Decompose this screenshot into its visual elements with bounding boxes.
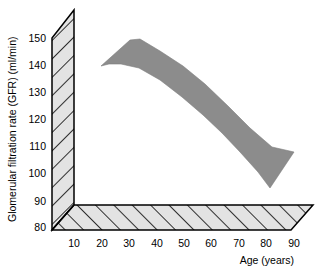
y-tick-label-130: 130 (28, 86, 46, 98)
x-tick-label-30: 30 (123, 237, 135, 249)
x-axis-title: Age (years) (240, 254, 294, 266)
gfr-age-chart: 150 140 130 120 110 100 90 80 10 20 30 4… (0, 0, 328, 278)
x-tick-label-20: 20 (96, 237, 108, 249)
x-tick-label-40: 40 (151, 237, 163, 249)
chart-figure: 150 140 130 120 110 100 90 80 10 20 30 4… (0, 0, 328, 278)
x-tick-label-70: 70 (233, 237, 245, 249)
y-tick-label-120: 120 (28, 113, 46, 125)
y-tick-label-140: 140 (28, 59, 46, 71)
y-axis-slab (52, 10, 74, 230)
y-tick-label-110: 110 (29, 140, 46, 152)
x-tick-label-60: 60 (205, 237, 217, 249)
x-tick-label-10: 10 (68, 237, 80, 249)
x-tick-label-90: 90 (288, 237, 300, 249)
y-tick-label-90: 90 (34, 195, 46, 207)
y-tick-label-80: 80 (34, 221, 46, 233)
y-axis-title: Glomerular filtration rate (GFR) (ml/min… (6, 36, 18, 222)
x-axis-slab (52, 205, 313, 230)
y-tick-label-150: 150 (28, 32, 46, 44)
y-tick-label-100: 100 (28, 167, 46, 179)
x-tick-label-50: 50 (178, 237, 190, 249)
x-tick-label-80: 80 (260, 237, 272, 249)
gfr-range-band (101, 39, 294, 188)
